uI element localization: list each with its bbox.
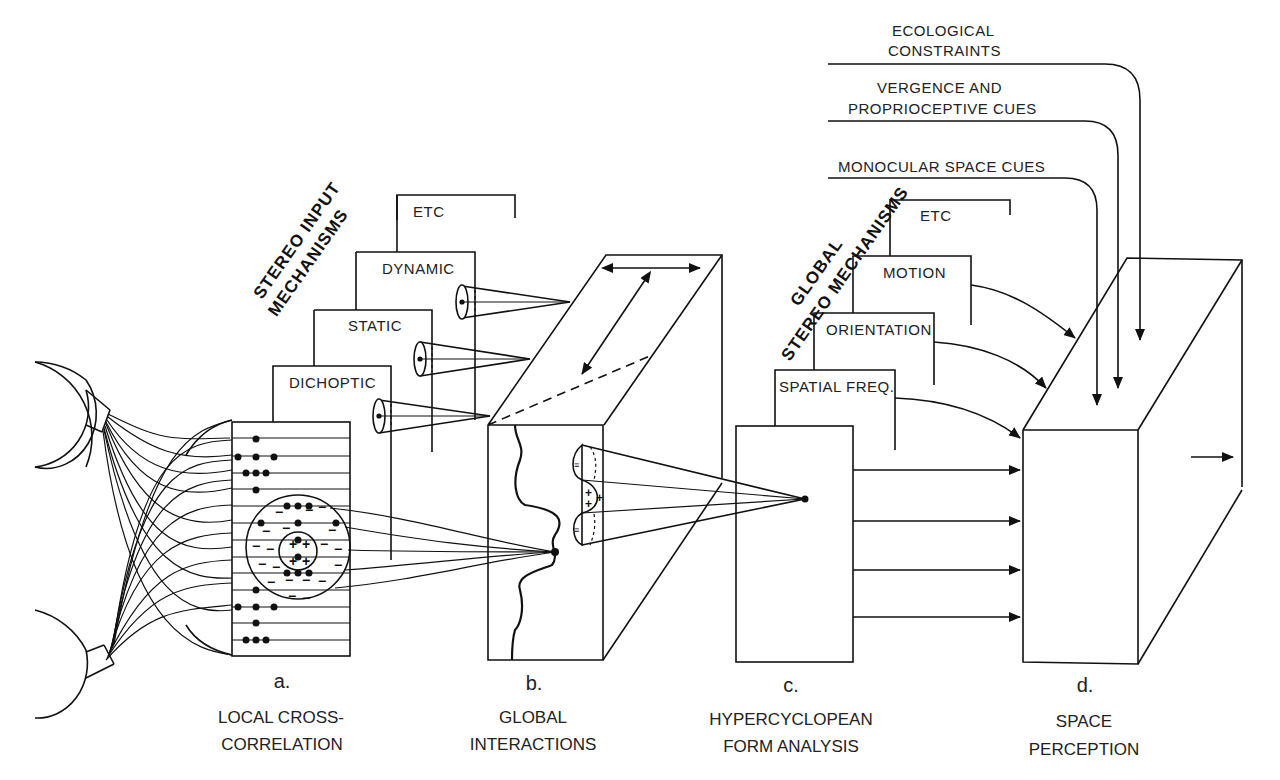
- caption-b: b. GLOBAL INTERACTIONS: [470, 672, 597, 754]
- stereo-box-dynamic: DYNAMIC: [382, 260, 455, 277]
- svg-text:−: −: [252, 538, 260, 554]
- caption-a: a. LOCAL CROSS- CORRELATION: [218, 670, 344, 754]
- convergence-a-to-b: [330, 508, 555, 588]
- svg-text:−: −: [318, 573, 326, 589]
- cue-vergence-1: VERGENCE AND: [877, 79, 1002, 96]
- stereo-input-heading: STEREO INPUT MECHANISMS: [246, 179, 362, 320]
- svg-text:+: +: [302, 553, 310, 569]
- caption-c: c. HYPERCYCLOPEAN FORM ANALYSIS: [709, 674, 872, 756]
- left-eye-bottom: [35, 610, 114, 718]
- svg-text:−: −: [272, 559, 280, 575]
- stereo-box-static: STATIC: [348, 317, 402, 334]
- svg-text:−: −: [334, 557, 342, 573]
- svg-text:PERCEPTION: PERCEPTION: [1029, 740, 1140, 759]
- svg-text:CORRELATION: CORRELATION: [221, 735, 343, 754]
- svg-text:−: −: [258, 556, 266, 572]
- svg-text:FORM ANALYSIS: FORM ANALYSIS: [723, 737, 859, 756]
- stereo-box-etc: ETC: [413, 203, 445, 220]
- svg-text:−: −: [318, 499, 326, 515]
- svg-text:+: +: [289, 553, 297, 569]
- svg-text:−: −: [305, 502, 313, 518]
- svg-text:≡: ≡: [574, 460, 579, 470]
- global-box-orientation: ORIENTATION: [826, 321, 932, 338]
- svg-text:SPACE: SPACE: [1056, 712, 1112, 731]
- fiber-loop: [186, 625, 232, 655]
- svg-text:−: −: [302, 572, 310, 588]
- cue-ecological-2: CONSTRAINTS: [888, 42, 1001, 59]
- global-box-etc: ETC: [920, 207, 952, 224]
- left-eye-top: [35, 362, 110, 468]
- svg-text:GLOBAL: GLOBAL: [499, 708, 567, 727]
- stereo-diagram: + + + + − − − − − − − − − − − − − − − − …: [0, 0, 1280, 780]
- svg-text:LOCAL CROSS-: LOCAL CROSS-: [218, 708, 344, 727]
- svg-text:−: −: [266, 541, 274, 557]
- svg-text:+: +: [302, 536, 310, 552]
- svg-text:−: −: [285, 572, 293, 588]
- svg-text:HYPERCYCLOPEAN: HYPERCYCLOPEAN: [709, 710, 872, 729]
- svg-text:c.: c.: [783, 674, 799, 696]
- svg-text:−: −: [267, 574, 275, 590]
- svg-text:+: +: [585, 497, 592, 511]
- panel-c-box: [736, 426, 1020, 662]
- panel-b-box: [488, 255, 722, 660]
- svg-text:−: −: [275, 504, 283, 520]
- optic-fibers: [103, 414, 232, 660]
- stereo-box-dichoptic: DICHOPTIC: [289, 374, 376, 391]
- global-box-motion: MOTION: [883, 264, 946, 281]
- svg-text:d.: d.: [1077, 674, 1094, 696]
- svg-text:+: +: [596, 491, 603, 505]
- svg-text:+: +: [289, 536, 297, 552]
- svg-text:−: −: [320, 536, 328, 552]
- svg-text:≡: ≡: [574, 525, 579, 535]
- svg-text:−: −: [302, 590, 310, 606]
- global-box-spatial-freq: SPATIAL FREQ.: [779, 378, 894, 395]
- svg-text:INTERACTIONS: INTERACTIONS: [470, 735, 597, 754]
- caption-d: d. SPACE PERCEPTION: [1029, 674, 1140, 759]
- svg-text:a.: a.: [274, 670, 291, 692]
- cue-ecological-1: ECOLOGICAL: [892, 22, 995, 39]
- cue-monocular: MONOCULAR SPACE CUES: [838, 158, 1045, 175]
- input-cones: [373, 285, 570, 433]
- svg-text:−: −: [288, 588, 296, 604]
- svg-text:b.: b.: [526, 672, 543, 694]
- panel-d-box: [1023, 258, 1242, 664]
- cue-vergence-2: PROPRIOCEPTIVE CUES: [848, 100, 1037, 117]
- svg-text:−: −: [334, 541, 342, 557]
- svg-text:−: −: [328, 522, 336, 538]
- svg-text:−: −: [282, 520, 290, 536]
- svg-text:−: −: [262, 523, 270, 539]
